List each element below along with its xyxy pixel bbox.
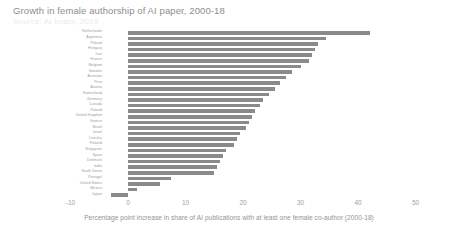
x-axis-tick-labels: -1001020304050 [0, 199, 458, 211]
x-axis-tick: 20 [239, 199, 246, 206]
bar [128, 76, 286, 80]
bar-row: Austria [0, 87, 458, 91]
bar [128, 70, 292, 74]
bar-row: Argentina [0, 37, 458, 41]
bar-category-label: India [94, 164, 102, 169]
bar-row: Belgium [0, 65, 458, 69]
bar-row: Iran [0, 53, 458, 57]
bar-category-label: Australia [88, 74, 102, 79]
bar-category-label: Peru [94, 80, 102, 85]
x-axis-tick: 40 [354, 199, 361, 206]
bar-row: United Kingdom [0, 115, 458, 119]
bar-category-label: Hungary [88, 46, 102, 51]
bar-category-label: Israel [93, 130, 102, 135]
bar-category-label: Poland [91, 108, 103, 113]
bar-row: India [0, 165, 458, 169]
bar-row: Denmark [0, 160, 458, 164]
bar-category-label: Belgium [89, 63, 102, 68]
bar-category-label: Singapore [85, 147, 102, 152]
bar [128, 65, 301, 69]
bar-row: Czechia [0, 137, 458, 141]
bar-category-label: Sweden [89, 69, 102, 74]
bar [128, 53, 312, 57]
chart-subtitle: Source: AI Index, 2019 [13, 17, 98, 26]
bar [128, 121, 249, 125]
bar-row: Mexico [0, 188, 458, 192]
bar-row: United States [0, 182, 458, 186]
bar [128, 31, 370, 35]
bar-category-label: Poland [91, 41, 103, 46]
bar [128, 160, 220, 164]
plot-area: NetherlandsArgentinaPolandHungaryIranFra… [0, 30, 458, 198]
bar-row: Poland [0, 109, 458, 113]
bar [128, 98, 263, 102]
bar-row: Poland [0, 42, 458, 46]
bar-row: Portugal [0, 177, 458, 181]
bar [128, 37, 326, 41]
bar [128, 171, 214, 175]
bar-row: Netherlands [0, 31, 458, 35]
bar-row: Spain [0, 154, 458, 158]
bar-category-label: Netherlands [82, 29, 102, 34]
bar [128, 177, 171, 181]
bar-category-label: Japan [92, 192, 102, 197]
bar-category-label: Mexico [90, 186, 102, 191]
bar-row: France [0, 59, 458, 63]
bar-category-label: Brazil [93, 125, 102, 130]
bar [128, 126, 246, 130]
bar [128, 154, 223, 158]
bar-row: Israel [0, 132, 458, 136]
bar-category-label: Iran [96, 52, 102, 57]
bar [128, 109, 255, 113]
bar-row: Brazil [0, 126, 458, 130]
bar-row: Greece [0, 121, 458, 125]
bar [128, 93, 269, 97]
bar [128, 87, 275, 91]
x-axis-tick: 0 [126, 199, 130, 206]
bar [128, 132, 240, 136]
bar [128, 149, 226, 153]
bar [128, 48, 315, 52]
x-axis-tick: -10 [66, 199, 75, 206]
x-axis-title: Percentage point increase in share of AI… [0, 214, 458, 221]
bar [128, 165, 217, 169]
bar [128, 188, 137, 192]
x-axis-tick: 30 [297, 199, 304, 206]
bar-row: Peru [0, 81, 458, 85]
bar [128, 137, 237, 141]
bar-row: Switzerland [0, 93, 458, 97]
bar-category-label: Austria [90, 85, 102, 90]
bar [128, 182, 160, 186]
bar-category-label: Spain [93, 153, 102, 158]
bar [128, 143, 234, 147]
bar [128, 59, 309, 63]
bar-category-label: South Korea [81, 169, 102, 174]
bar-category-label: United States [80, 181, 102, 186]
chart-container: Growth in female authorship of AI paper,… [0, 0, 458, 232]
bar-category-label: Germany [87, 97, 102, 102]
bar-row: Japan [0, 193, 458, 197]
bar-row: Australia [0, 76, 458, 80]
bar [128, 42, 318, 46]
bar-category-label: Finland [90, 141, 102, 146]
bar-row: Canada [0, 104, 458, 108]
bar-category-label: Czechia [89, 136, 102, 141]
bar-category-label: Greece [90, 119, 102, 124]
bar-row: Hungary [0, 48, 458, 52]
bar [128, 81, 280, 85]
bar-category-label: France [91, 57, 103, 62]
bar-row: Finland [0, 143, 458, 147]
bar-category-label: Canada [89, 102, 102, 107]
bar-category-label: Portugal [88, 175, 102, 180]
bar-row: Sweden [0, 70, 458, 74]
x-axis-tick: 10 [182, 199, 189, 206]
bar-row: Germany [0, 98, 458, 102]
bar [128, 104, 260, 108]
bar-row: Singapore [0, 149, 458, 153]
x-axis-tick: 50 [412, 199, 419, 206]
bar-category-label: Argentina [86, 35, 102, 40]
bar [128, 115, 252, 119]
bar-category-label: Switzerland [83, 91, 102, 96]
bar-category-label: Denmark [87, 158, 102, 163]
bar-row: South Korea [0, 171, 458, 175]
